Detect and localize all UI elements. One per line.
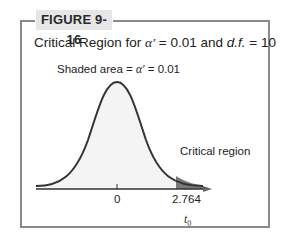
critical-region-label: Critical region: [180, 145, 250, 157]
t-distribution-plot: [0, 0, 281, 242]
x-axis-arrow-icon: [203, 186, 212, 192]
tick-label-zero: 0: [114, 193, 120, 205]
x-axis-label-sub: 0: [187, 219, 191, 228]
tick-label-critical: 2.764: [172, 193, 201, 205]
curve-fill: [36, 82, 203, 189]
x-axis-label: t0: [184, 212, 191, 228]
